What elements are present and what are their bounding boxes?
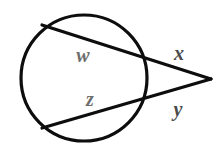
geometry-diagram-canvas: w x z y [0,0,220,154]
label-z: z [85,88,94,110]
label-y: y [172,98,183,121]
geometry-figure: w x z y [0,0,220,154]
label-x: x [173,42,184,64]
label-w: w [76,44,90,66]
figure-background [0,0,220,154]
